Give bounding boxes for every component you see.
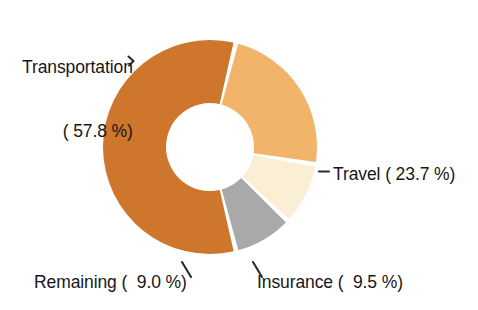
- slice-label-remaining: Remaining ( 9.0 %): [34, 272, 187, 293]
- slice-label-travel: Travel ( 23.7 %): [333, 164, 455, 185]
- slice-label-insurance: Insurance ( 9.5 %): [257, 272, 403, 293]
- donut-slice-group: [103, 40, 317, 254]
- slice-label-transportation-name: Transportation: [22, 57, 133, 78]
- slice-label-transportation: Transportation ( 57.8 %): [22, 14, 133, 185]
- donut-chart-figure: Transportation ( 57.8 %) Travel ( 23.7 %…: [0, 0, 478, 310]
- donut-slice-travel[interactable]: [222, 44, 317, 162]
- slice-label-transportation-value: ( 57.8 %): [22, 121, 133, 142]
